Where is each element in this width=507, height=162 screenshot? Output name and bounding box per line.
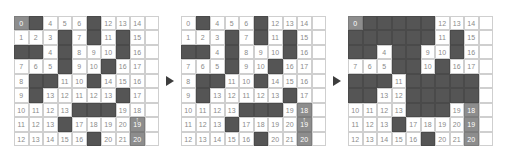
grid-cell-free: 13 [363,132,378,147]
cell-value: 12 [228,92,236,99]
cell-value: 20 [271,136,279,143]
cell-value: 3 [382,34,386,41]
cell-value: 4 [382,20,386,27]
cell-value: 8 [19,78,23,85]
cell-value: 11 [61,78,68,85]
cell-value: 16 [75,136,83,143]
grid-cell-free: 8 [14,74,29,89]
grid-cell-free: 8 [181,74,196,89]
cell-value: 17 [133,92,141,99]
grid-cell-free: 10 [254,59,269,74]
grid-cell-empty [312,74,327,89]
cell-value: 19 [467,121,475,128]
triangle-shape [166,76,174,86]
grid-panel-2: 0456121314123711154891016765910161781110… [181,16,326,147]
cell-value: 17 [467,63,475,70]
cell-value: 4 [48,49,52,56]
grid-cell-empty [145,132,160,147]
grid-cell-free: 5 [58,16,73,31]
cell-value: 17 [467,92,475,99]
cell-value: 19 [133,121,141,128]
grid-cell-free: 13 [210,88,225,103]
cell-value: 5 [397,20,401,27]
grid-cell-wall [101,103,116,118]
cell-value: 12 [32,121,40,128]
grid-cell-free: 14 [297,16,312,31]
cell-value: 9 [259,49,263,56]
cell-value: 12 [438,20,446,27]
grid-cell-free: 16 [297,45,312,60]
grid-cell-free: 16 [283,59,298,74]
cell-value: 5 [63,20,67,27]
grid-cell-wall [392,45,407,60]
grid-cell-path: 0 [14,16,29,31]
grid-cell-free: 10 [239,74,254,89]
cell-value: 15 [133,34,141,41]
cell-value: 9 [411,63,415,70]
grid-cell-free: 3 [43,30,58,45]
cell-value: 19 [119,107,127,114]
cell-value: 13 [61,107,69,114]
cell-value: 12 [395,92,403,99]
cell-value: 16 [242,136,250,143]
grid-cell-free: 12 [363,117,378,132]
grid-cell-empty [479,16,494,31]
grid-cell-free: 16 [130,45,145,60]
grid-cell-free: 16 [72,132,87,147]
grid-cell-free: 15 [225,132,240,147]
grid-cell-wall [392,30,407,45]
grid-cell-free: 13 [283,16,298,31]
grid-cell-wall [421,74,436,89]
grid-cell-wall [116,30,131,45]
grid-cell-free: 10 [348,103,363,118]
cell-value: 8 [353,78,357,85]
cell-value: 10 [424,63,432,70]
cell-value: 6 [368,63,372,70]
cell-value: 11 [410,92,417,99]
grid-cell-free: 11 [101,30,116,45]
cell-value: 6 [201,63,205,70]
grid-cell-wall [196,88,211,103]
cell-value: 13 [286,20,294,27]
cell-value: 12 [199,121,207,128]
grid-cell-free: 21 [116,132,131,147]
grid-cell-free: 5 [377,59,392,74]
grid-cell-wall [435,59,450,74]
grid-cell-wall: 17 [464,88,479,103]
cell-value: 19 [453,107,461,114]
grid-cell-free: 6 [363,59,378,74]
cell-value: 15 [119,78,127,85]
grid-cell-free: 21 [283,132,298,147]
grid-cell-empty [479,30,494,45]
grid-cell-free: 10 [101,45,116,60]
grid-cell-free: 12 [196,117,211,132]
grid-cell-free: 7 [181,59,196,74]
grid-cell-wall: 6 [406,16,421,31]
cell-value: 12 [61,92,69,99]
cell-value: 9 [426,49,430,56]
grid-cell-free: 10 [268,45,283,60]
grid-cell-free: 12 [225,88,240,103]
grid-cell-free: 16 [464,45,479,60]
grid-cell-free: 11 [435,30,450,45]
cell-value: 1 [186,34,190,41]
cell-value: 20 [438,136,446,143]
grid-cell-wall [392,59,407,74]
grid-cell-free: 12 [392,88,407,103]
cell-value: 10 [242,78,250,85]
cell-value: 15 [453,78,461,85]
grid-cell-wall [363,74,378,89]
grid-cell-wall [406,103,421,118]
grid-cell-free: 4 [210,16,225,31]
grid-cell-empty [312,117,327,132]
grid-cell-wall [225,30,240,45]
grid-cell-free: 4 [377,45,392,60]
cell-value: 19 [300,121,308,128]
grid-cell-free: 11 [225,74,240,89]
cell-value: 9 [186,92,190,99]
grid-cell-free: 11 [72,88,87,103]
cell-value: 16 [300,78,308,85]
grid-cell-free: 17 [130,88,145,103]
grid-cell-wall [72,103,87,118]
cell-value: 16 [409,136,417,143]
